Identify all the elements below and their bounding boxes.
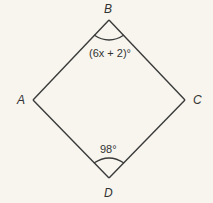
edge-bc: [109, 20, 185, 100]
edge-cd: [109, 100, 185, 178]
edge-ab: [33, 20, 109, 100]
vertex-label-a: A: [16, 93, 25, 107]
vertex-label-d: D: [104, 186, 113, 200]
rhombus-diagram: B A C D (6x + 2)° 98°: [0, 0, 213, 203]
vertex-label-b: B: [104, 2, 112, 16]
vertex-label-c: C: [193, 93, 202, 107]
angle-arc-d: [94, 158, 124, 163]
edge-da: [33, 100, 109, 178]
angle-label-b: (6x + 2)°: [89, 47, 131, 59]
angle-label-d: 98°: [100, 143, 117, 155]
angle-arc-b: [94, 35, 124, 40]
